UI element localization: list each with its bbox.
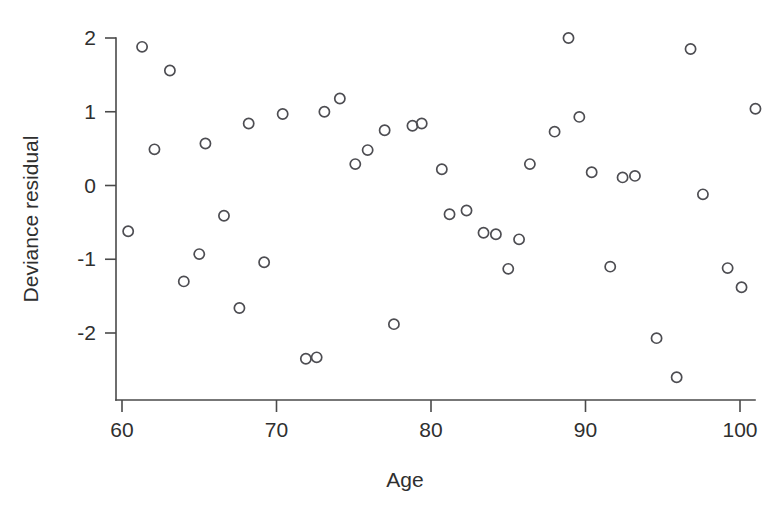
scatter-point: [685, 44, 695, 54]
scatter-point: [194, 249, 204, 259]
scatter-point: [514, 234, 524, 244]
scatter-point: [200, 138, 210, 148]
x-axis: 60708090100: [110, 400, 757, 441]
scatter-point: [550, 127, 560, 137]
plot-canvas: 210-1-2 60708090100 Age Deviance residua…: [0, 0, 769, 510]
scatter-point: [165, 65, 175, 75]
scatter-point: [278, 109, 288, 119]
scatter-point: [630, 171, 640, 181]
scatter-point: [437, 164, 447, 174]
scatter-point: [259, 257, 269, 267]
scatter-plot-figure: 210-1-2 60708090100 Age Deviance residua…: [0, 0, 769, 510]
scatter-point: [301, 354, 311, 364]
scatter-point: [350, 159, 360, 169]
scatter-point: [587, 167, 597, 177]
scatter-point: [219, 211, 229, 221]
scatter-point: [605, 262, 615, 272]
scatter-point: [319, 107, 329, 117]
scatter-points: [123, 33, 760, 382]
x-tick-label: 100: [722, 418, 757, 441]
scatter-point: [651, 333, 661, 343]
x-tick-label: 70: [265, 418, 288, 441]
x-axis-title: Age: [386, 468, 423, 491]
scatter-point: [503, 264, 513, 274]
scatter-point: [363, 145, 373, 155]
scatter-point: [380, 125, 390, 135]
scatter-point: [149, 144, 159, 154]
scatter-point: [478, 228, 488, 238]
scatter-point: [750, 104, 760, 114]
x-tick-label: 80: [419, 418, 442, 441]
scatter-point: [563, 33, 573, 43]
y-tick-label: -1: [77, 247, 96, 270]
scatter-point: [672, 372, 682, 382]
scatter-point: [491, 229, 501, 239]
scatter-point: [312, 352, 322, 362]
scatter-point: [617, 172, 627, 182]
y-axis-tick-labels: 210-1-2: [77, 26, 96, 344]
x-axis-ticks: [122, 400, 740, 412]
scatter-point: [525, 159, 535, 169]
x-tick-label: 60: [110, 418, 133, 441]
y-axis: 210-1-2: [77, 26, 116, 400]
scatter-point: [444, 209, 454, 219]
y-axis-title: Deviance residual: [19, 136, 42, 303]
scatter-point: [389, 319, 399, 329]
x-tick-label: 90: [574, 418, 597, 441]
y-tick-label: 0: [84, 174, 96, 197]
y-axis-ticks: [105, 38, 116, 333]
scatter-point: [234, 303, 244, 313]
scatter-point: [698, 189, 708, 199]
scatter-point: [574, 112, 584, 122]
scatter-point: [723, 263, 733, 273]
scatter-point: [461, 205, 471, 215]
scatter-point: [335, 93, 345, 103]
y-tick-label: -2: [77, 321, 96, 344]
scatter-point: [417, 118, 427, 128]
y-tick-label: 1: [84, 100, 96, 123]
scatter-point: [179, 276, 189, 286]
scatter-point: [123, 226, 133, 236]
x-axis-tick-labels: 60708090100: [110, 418, 757, 441]
scatter-point: [736, 282, 746, 292]
scatter-point: [137, 42, 147, 52]
y-tick-label: 2: [84, 26, 96, 49]
scatter-point: [244, 118, 254, 128]
